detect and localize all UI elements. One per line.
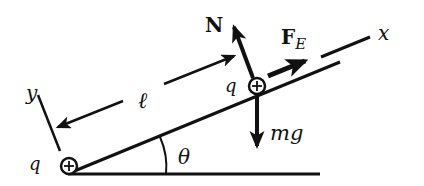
y-axis-line	[38, 95, 60, 151]
inclined-plane-diagram: N FE x y ℓ q q mg θ	[0, 0, 424, 186]
positive-charge-top-icon	[249, 78, 265, 94]
label-electric-force: FE	[281, 25, 306, 53]
x-axis-line	[321, 37, 370, 57]
label-angle: θ	[178, 145, 190, 169]
label-distance: ℓ	[138, 88, 148, 113]
normal-force-arrow	[234, 27, 253, 78]
label-charge-bottom: q	[29, 153, 41, 174]
angle-arc	[160, 137, 166, 174]
electric-force-arrow	[268, 61, 305, 76]
positive-charge-bottom-icon	[61, 158, 77, 174]
incline-line	[72, 62, 340, 172]
distance-arrow-left	[58, 101, 123, 127]
label-charge-top: q	[225, 75, 237, 96]
label-weight: mg	[270, 121, 303, 145]
distance-arrow-right	[164, 56, 234, 84]
label-x-axis: x	[378, 21, 389, 45]
label-y-axis: y	[25, 81, 38, 105]
label-normal-force: N	[205, 13, 223, 37]
